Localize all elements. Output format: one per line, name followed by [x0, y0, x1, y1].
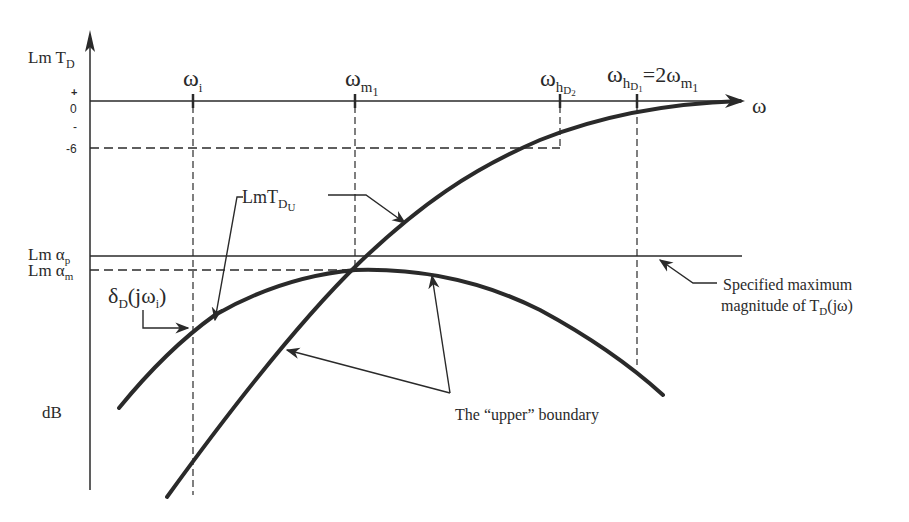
- spec-max-leader: [660, 260, 717, 283]
- upper-boundary-leaders: [287, 276, 450, 393]
- loop-shaping-diagram: Lm TD + 0 - -6 Lm αp Lm αm dB ω ωi ωm1 ω…: [0, 0, 909, 522]
- y-axis: [85, 30, 95, 490]
- upper-boundary-label: The “upper” boundary: [455, 406, 599, 424]
- db-unit-label: dB: [42, 403, 62, 422]
- tick-minus: -: [73, 120, 77, 134]
- omega-i-label: ωi: [183, 65, 203, 95]
- x-axis: [90, 94, 745, 108]
- omega-hD1-label: ωhD1=2ωm1: [607, 61, 698, 95]
- lmtdu-curve: [167, 101, 740, 497]
- delta-label: δD(jωi): [108, 283, 166, 311]
- upper-boundary-curve: [119, 270, 663, 408]
- spec-max-label-line1: Specified maximum: [723, 276, 853, 294]
- spec-max-label-line2: magnitude of TD(jω): [721, 297, 853, 317]
- tick-minus6: -6: [66, 142, 77, 156]
- tick-zero: 0: [70, 102, 77, 116]
- y-axis-label: Lm TD: [28, 48, 75, 71]
- lmtdu-label: LmTDU: [242, 187, 295, 213]
- tick-plus: +: [71, 86, 77, 98]
- delta-leader: [143, 310, 188, 328]
- x-axis-label: ω: [752, 93, 766, 118]
- omega-hD2-label: ωhD2: [540, 65, 576, 98]
- omega-m1-label: ωm1: [345, 65, 378, 99]
